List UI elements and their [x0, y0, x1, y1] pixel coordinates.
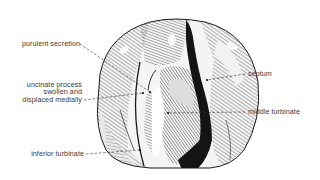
- label-septum: septum: [248, 70, 272, 77]
- nasal-cavity-drawing: [90, 14, 265, 174]
- label-purulent-secretion: purulent secretion: [18, 40, 80, 47]
- label-uncinate-process: uncinate process swollen and displaced m…: [14, 81, 82, 103]
- label-line: displaced medially: [14, 96, 82, 103]
- label-line: middle turbinate: [248, 108, 300, 115]
- label-line: purulent secretion: [18, 40, 80, 47]
- nasal-endoscopy-figure: purulent secretion uncinate process swol…: [0, 0, 320, 180]
- label-inferior-turbinate: inferior turbinate: [20, 150, 84, 157]
- label-line: septum: [248, 70, 272, 77]
- label-line: inferior turbinate: [20, 150, 84, 157]
- label-middle-turbinate: middle turbinate: [248, 108, 300, 115]
